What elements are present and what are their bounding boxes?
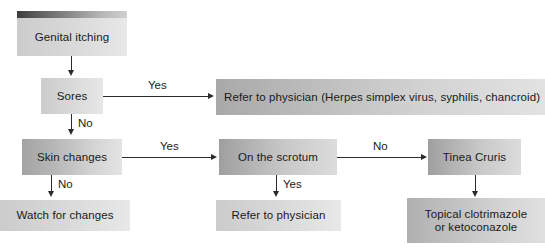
node-watch-for-changes[interactable]: Watch for changes [0, 200, 130, 231]
edge-label-skin-no: No [58, 178, 73, 190]
edge-label-sores-no: No [78, 117, 93, 129]
node-refer-to-physician[interactable]: Refer to physician [216, 200, 341, 231]
edge-label-scrotum-no: No [373, 140, 388, 152]
edge-label-skin-yes: Yes [160, 140, 179, 152]
edge-label-scrotum-yes: Yes [283, 178, 302, 190]
edge-label-sores-yes: Yes [148, 79, 167, 91]
edge-scrotum-yes-arrowhead [273, 191, 279, 197]
edge-itching-to-sores-arrowhead [68, 70, 74, 76]
flowchart-diagram: Genital itching Sores Yes Refer to physi… [0, 0, 545, 251]
edge-scrotum-no-arrowhead [421, 154, 427, 160]
node-on-the-scrotum[interactable]: On the scrotum [219, 139, 337, 175]
node-topical-treatment[interactable]: Topical clotrimazole or ketoconazole [407, 198, 545, 243]
edge-skin-yes-arrowhead [211, 154, 217, 160]
title-accent-bar [17, 11, 127, 18]
node-skin-changes[interactable]: Skin changes [22, 139, 122, 175]
edge-scrotum-no-line [337, 157, 422, 158]
edge-skin-yes-line [122, 157, 212, 158]
node-sores[interactable]: Sores [41, 78, 103, 114]
node-refer-herpes[interactable]: Refer to physician (Herpes simplex virus… [216, 79, 545, 115]
node-tinea-cruris[interactable]: Tinea Cruris [428, 139, 521, 175]
node-genital-itching[interactable]: Genital itching [17, 18, 127, 56]
edge-skin-no-arrowhead [48, 191, 54, 197]
edge-sores-yes-line [103, 96, 209, 97]
edge-sores-yes-arrowhead [208, 93, 214, 99]
edge-sores-no-arrowhead [68, 129, 74, 135]
edge-tinea-to-topical-arrowhead [472, 191, 478, 197]
